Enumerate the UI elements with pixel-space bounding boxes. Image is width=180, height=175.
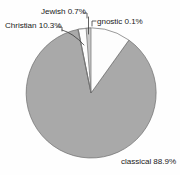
pie-label-christian: Christian 10.3% [5,21,61,30]
pie-chart-figure: Jewish 0.7% Christian 10.3% gnostic 0.1%… [0,0,180,175]
pie-label-jewish: Jewish 0.7% [41,7,86,16]
pie-label-classical: classical 88.9% [121,157,176,166]
pie-label-gnostic: gnostic 0.1% [97,17,143,26]
